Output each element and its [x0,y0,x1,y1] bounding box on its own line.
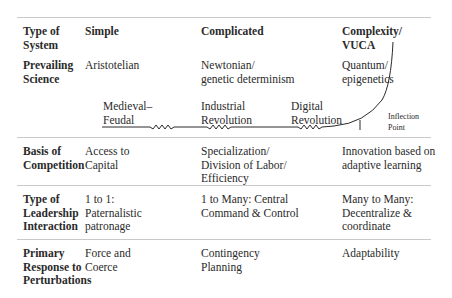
row-header-basis-of-competition: Basis ofCompetition [23,145,84,172]
leadership-simple: 1 to 1:Paternalisticpatronage [85,193,142,234]
row-header-leadership-interaction: Type ofLeadershipInteraction [23,193,79,234]
leadership-complicated: 1 to Many: CentralCommand & Control [201,193,299,220]
leadership-complex: Many to Many:Decentralize &coordinate [342,193,414,234]
response-complex: Adaptability [342,247,400,261]
competition-complicated: Specialization/Division of Labor/Efficie… [201,145,287,186]
row-header-primary-response: PrimaryResponse toPerturbations [23,247,91,288]
competition-complex: Innovation based onadaptive learning [342,145,435,172]
competition-simple: Access toCapital [85,145,129,172]
response-simple: Force andCoerce [85,247,131,274]
response-complicated: ContingencyPlanning [201,247,260,274]
timeline-line-icon [102,42,393,129]
